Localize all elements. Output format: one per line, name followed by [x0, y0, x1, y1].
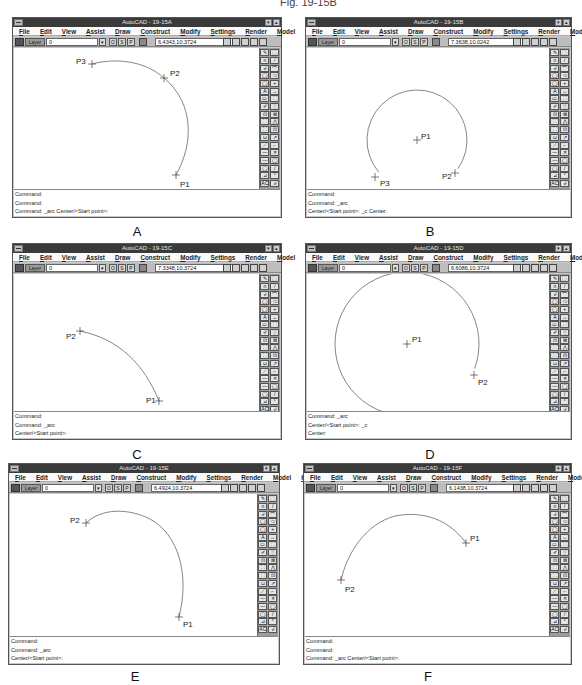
palette-tool-icon[interactable]: ° [270, 398, 279, 405]
palette-tool-icon[interactable]: ° [270, 172, 279, 179]
toolbar-tool-icon[interactable] [531, 484, 539, 492]
palette-tool-icon[interactable]: ⊠ [560, 337, 569, 344]
toolbar-tool-icon[interactable] [513, 264, 521, 272]
palette-tool-icon[interactable]: ° [560, 398, 569, 405]
color-swatch[interactable] [11, 484, 20, 492]
menu-settings[interactable]: Settings [503, 27, 528, 35]
palette-tool-icon[interactable]: ⸬ [258, 572, 267, 579]
palette-tool-icon[interactable]: ⟋ [258, 588, 267, 595]
palette-tool-icon[interactable]: n [258, 503, 267, 510]
menu-model[interactable]: Model [277, 27, 295, 35]
toolbar-tool-icon[interactable] [248, 484, 256, 492]
palette-tool-icon[interactable]: ⌐ [270, 368, 279, 375]
palette-tool-icon[interactable]: / [270, 57, 279, 64]
toolbar-tool-icon[interactable] [522, 484, 530, 492]
palette-tool-icon[interactable]: + [268, 526, 277, 533]
mode-button-s[interactable]: S [114, 484, 122, 492]
menu-modify[interactable]: Modify [176, 473, 196, 481]
layer-button[interactable]: Layer [25, 264, 45, 272]
palette-tool-icon[interactable]: ° [560, 172, 569, 179]
palette-tool-icon[interactable]: ✐ [260, 329, 269, 336]
layer-field[interactable]: 0 [339, 264, 391, 272]
palette-tool-icon[interactable]: ⸬ [260, 126, 269, 133]
menu-assist[interactable]: Assist [377, 473, 396, 481]
palette-tool-icon[interactable]: ⌐ [560, 368, 569, 375]
palette-tool-icon[interactable]: ✐ [550, 103, 559, 110]
menu-construct[interactable]: Construct [140, 27, 170, 35]
menu-settings[interactable]: Settings [206, 473, 231, 481]
palette-tool-icon[interactable]: ⌒ [560, 291, 569, 298]
palette-tool-icon[interactable]: ✕ [270, 149, 279, 156]
palette-tool-icon[interactable]: ⊿ [260, 172, 269, 179]
palette-tool-icon[interactable]: ⸬ [560, 321, 569, 328]
palette-tool-icon[interactable]: ⸬ [260, 344, 269, 351]
palette-tool-icon[interactable]: ◯ [550, 80, 559, 87]
menu-view[interactable]: View [355, 253, 369, 261]
palette-tool-icon[interactable]: — [258, 603, 267, 610]
palette-tool-icon[interactable]: ⊿ [550, 398, 559, 405]
palette-tool-icon[interactable]: ⌒ [270, 291, 279, 298]
palette-tool-icon[interactable]: ⬭ [270, 298, 279, 305]
toolbar-tool-icon[interactable] [540, 38, 548, 46]
menu-assist[interactable]: Assist [82, 473, 101, 481]
system-menu-icon[interactable] [305, 465, 314, 472]
palette-tool-icon[interactable]: ⋀ [560, 344, 569, 351]
menu-construct[interactable]: Construct [433, 253, 463, 261]
palette-tool-icon[interactable]: ↲ [268, 626, 277, 633]
palette-tool-icon[interactable]: ⊡ [268, 572, 277, 579]
palette-tool-icon[interactable]: ↗ [560, 360, 569, 367]
palette-tool-icon[interactable]: ↲ [560, 626, 569, 633]
palette-tool-icon[interactable]: ⊠ [270, 111, 279, 118]
palette-tool-icon[interactable]: ▭ [258, 541, 267, 548]
menu-construct[interactable]: Construct [433, 27, 463, 35]
palette-tool-icon[interactable]: + [270, 80, 279, 87]
palette-tool-icon[interactable]: ↔ [268, 534, 277, 541]
palette-tool-icon[interactable]: — [260, 157, 269, 164]
system-menu-icon[interactable] [14, 19, 23, 26]
palette-tool-icon[interactable]: ⸬ [550, 572, 559, 579]
toolbar-tool-icon[interactable] [549, 484, 557, 492]
palette-tool-icon[interactable]: ◯ [550, 391, 559, 398]
palette-tool-icon[interactable]: A [260, 314, 269, 321]
toolbar-tool-icon[interactable] [549, 264, 557, 272]
layer-button[interactable]: Layer [318, 38, 338, 46]
palette-tool-icon[interactable]: ◯ [550, 72, 559, 79]
menu-settings[interactable]: Settings [210, 27, 235, 35]
palette-tool-icon[interactable]: ▭ [550, 321, 559, 328]
palette-tool-icon[interactable]: ◯ [550, 165, 559, 172]
system-menu-icon[interactable] [307, 19, 316, 26]
color-swatch[interactable] [306, 484, 315, 492]
palette-tool-icon[interactable]: ↗ [270, 134, 279, 141]
palette-tool-icon[interactable]: ⌐ [268, 588, 277, 595]
minimize-icon[interactable]: ▾ [265, 245, 272, 252]
palette-tool-icon[interactable]: ░ [560, 329, 569, 336]
toolbar-tool-icon[interactable] [241, 264, 249, 272]
palette-tool-icon[interactable]: ⬚ [560, 49, 569, 56]
toolbar-tool-icon[interactable] [540, 264, 548, 272]
palette-tool-icon[interactable]: ◯ [560, 383, 569, 390]
mode-button-p[interactable]: P [127, 264, 135, 272]
system-menu-icon[interactable] [307, 245, 316, 252]
palette-tool-icon[interactable]: ⊠ [560, 111, 569, 118]
palette-tool-icon[interactable]: ⸬ [550, 564, 559, 571]
palette-tool-icon[interactable]: ◯ [550, 611, 559, 618]
menu-edit[interactable]: Edit [40, 253, 52, 261]
palette-tool-icon[interactable]: ⬭ [560, 298, 569, 305]
palette-tool-icon[interactable]: ⸬ [550, 118, 559, 125]
palette-tool-icon[interactable]: ⋀ [268, 564, 277, 571]
palette-tool-icon[interactable]: ⬚ [268, 495, 277, 502]
palette-tool-icon[interactable]: ✕ [560, 595, 569, 602]
mode-button-s[interactable]: S [118, 38, 126, 46]
palette-tool-icon[interactable]: AC [550, 180, 559, 187]
palette-tool-icon[interactable]: n [260, 57, 269, 64]
palette-tool-icon[interactable]: ° [268, 618, 277, 625]
palette-tool-icon[interactable]: + [270, 306, 279, 313]
mode-button-o[interactable]: O [402, 38, 410, 46]
palette-tool-icon[interactable]: ⌒ [270, 65, 279, 72]
system-menu-icon[interactable] [10, 465, 19, 472]
palette-tool-icon[interactable]: n [550, 503, 559, 510]
toolbar-tool-icon[interactable] [531, 38, 539, 46]
drawing-area[interactable]: P1P2 [10, 494, 258, 637]
layer-button[interactable]: Layer [316, 484, 336, 492]
grid-icon[interactable] [430, 484, 438, 492]
